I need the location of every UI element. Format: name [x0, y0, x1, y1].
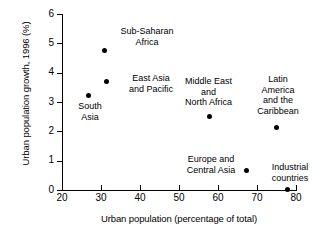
- point-label-industrial-countries: Industrial countries: [256, 162, 324, 183]
- point-label-europe-and-central-asia: Europe and Central Asia: [180, 154, 242, 175]
- point-label-south-asia: South Asia: [56, 101, 124, 122]
- y-tick-label-5: 5: [48, 37, 54, 49]
- y-tick-label-4: 4: [48, 66, 54, 78]
- point-label-latin-america-and-the-caribbean: Latin America and the Caribbean: [239, 74, 317, 116]
- x-tick-label-40: 40: [125, 192, 155, 204]
- y-tick-label-1: 1: [48, 154, 54, 166]
- y-tick-6: 6: [57, 14, 63, 15]
- scatter-chart-figure: Urban population growth, 1996 (%) Urban …: [0, 0, 332, 236]
- y-tick-1: 1: [57, 161, 63, 162]
- y-tick-5: 5: [57, 43, 63, 44]
- y-tick-label-2: 2: [48, 125, 54, 137]
- x-tick-60: [218, 185, 219, 191]
- y-tick-2: 2: [57, 131, 63, 132]
- point-label-sub-saharan-africa: Sub-Saharan Africa: [107, 26, 187, 47]
- data-point-europe-and-central-asia[interactable]: [244, 168, 249, 173]
- x-tick-label-30: 30: [86, 192, 116, 204]
- x-axis-title: Urban population (percentage of total): [62, 213, 296, 224]
- x-tick-50: [179, 185, 180, 191]
- x-tick-label-50: 50: [164, 192, 194, 204]
- data-point-latin-america-and-the-caribbean[interactable]: [274, 125, 279, 130]
- x-tick-40: [140, 185, 141, 191]
- x-tick-20: [62, 185, 63, 191]
- x-tick-label-20: 20: [47, 192, 77, 204]
- data-point-sub-saharan-africa[interactable]: [102, 48, 107, 53]
- x-tick-80: [296, 185, 297, 191]
- data-point-industrial-countries[interactable]: [285, 187, 290, 192]
- data-point-south-asia[interactable]: [86, 93, 91, 98]
- x-tick-label-60: 60: [203, 192, 233, 204]
- x-tick-label-80: 80: [281, 192, 311, 204]
- data-point-middle-east-and-north-africa[interactable]: [207, 114, 212, 119]
- data-point-east-asia-and-pacific[interactable]: [104, 79, 109, 84]
- x-tick-30: [101, 185, 102, 191]
- plot-area: 0 1 2 3 4 5 6 20 30 40 50 60 70: [62, 14, 296, 190]
- point-label-middle-east-and-north-africa: Middle East and North Africa: [169, 76, 248, 108]
- y-tick-4: 4: [57, 73, 63, 74]
- x-tick-70: [257, 185, 258, 191]
- y-tick-label-6: 6: [48, 8, 54, 20]
- y-axis-title: Urban population growth, 1996 (%): [20, 0, 31, 189]
- x-tick-label-70: 70: [242, 192, 272, 204]
- y-tick-label-3: 3: [48, 96, 54, 108]
